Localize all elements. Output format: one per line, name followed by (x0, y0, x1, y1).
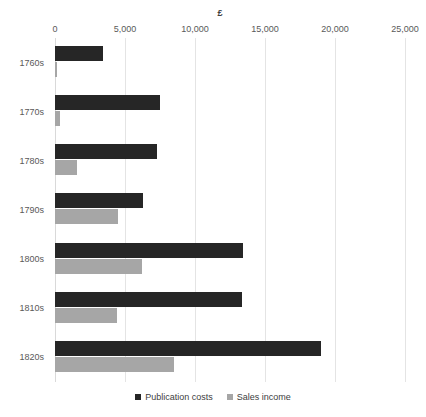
gridline-5 (405, 38, 406, 382)
x-axis-tick-2: 10,000 (181, 24, 209, 34)
bar-group (55, 185, 405, 234)
bar-group (55, 333, 405, 382)
bar-1800s-publication-costs (55, 243, 243, 258)
bar-1810s-publication-costs (55, 292, 242, 307)
chart-title-text: £ (217, 8, 222, 18)
bar-group (55, 38, 405, 87)
bar-1800s-sales-income (55, 259, 142, 274)
y-axis-tick-1820s: 1820s (19, 352, 44, 362)
bar-1810s-sales-income (55, 308, 117, 323)
bar-1780s-publication-costs (55, 144, 157, 159)
x-axis-tick-4: 20,000 (321, 24, 349, 34)
bar-group (55, 136, 405, 185)
bar-1790s-publication-costs (55, 193, 143, 208)
x-axis-tick-3: 15,000 (251, 24, 279, 34)
bar-group (55, 87, 405, 136)
legend-item-sales-income[interactable]: Sales income (227, 392, 291, 402)
legend-label: Sales income (237, 392, 291, 402)
y-axis-tick-1790s: 1790s (19, 205, 44, 215)
y-axis-tick-1800s: 1800s (19, 254, 44, 264)
x-axis-tick-1: 5,000 (114, 24, 137, 34)
legend-item-publication-costs[interactable]: Publication costs (135, 392, 213, 402)
y-axis-tick-1770s: 1770s (19, 107, 44, 117)
x-axis-tick-0: 0 (52, 24, 57, 34)
bar-chart: £ 05,00010,00015,00020,00025,000 1760s17… (0, 0, 426, 417)
y-axis-tick-1760s: 1760s (19, 58, 44, 68)
x-axis-tick-5: 25,000 (391, 24, 419, 34)
bar-group (55, 284, 405, 333)
bar-group (55, 235, 405, 284)
legend-label: Publication costs (145, 392, 213, 402)
plot-area (55, 38, 405, 382)
chart-title: £ (0, 8, 426, 18)
y-axis-tick-1780s: 1780s (19, 156, 44, 166)
bar-1770s-sales-income (55, 111, 60, 126)
legend-swatch-icon (227, 394, 233, 400)
bar-1820s-publication-costs (55, 341, 321, 356)
bar-1780s-sales-income (55, 160, 77, 175)
bar-1770s-publication-costs (55, 95, 160, 110)
legend-swatch-icon (135, 394, 141, 400)
bar-1760s-sales-income (55, 62, 57, 77)
bar-1760s-publication-costs (55, 46, 103, 61)
bar-1790s-sales-income (55, 209, 118, 224)
chart-legend: Publication costsSales income (0, 392, 426, 402)
x-axis-tick-labels: 05,00010,00015,00020,00025,000 (0, 24, 426, 38)
bar-1820s-sales-income (55, 357, 174, 372)
y-axis-category-labels: 1760s1770s1780s1790s1800s1810s1820s (0, 38, 50, 382)
y-axis-tick-1810s: 1810s (19, 303, 44, 313)
